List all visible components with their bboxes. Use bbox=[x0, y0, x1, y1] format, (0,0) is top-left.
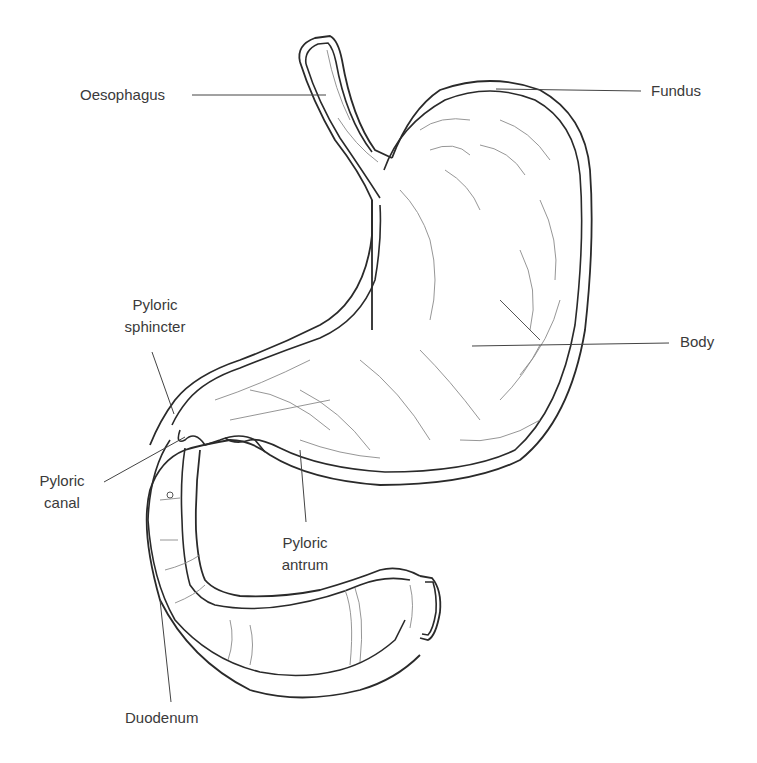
oesophagus-shape bbox=[299, 36, 392, 330]
stomach-inner-wall bbox=[172, 91, 582, 472]
label-pyloric-antrum: Pyloric antrum bbox=[270, 532, 340, 576]
label-body: Body bbox=[680, 331, 714, 353]
label-pyloric-sphincter: Pyloric sphincter bbox=[115, 294, 195, 338]
label-pyloric-canal: Pyloric canal bbox=[32, 470, 92, 514]
label-duodenum: Duodenum bbox=[125, 707, 198, 729]
leader-lines bbox=[104, 89, 669, 702]
leader-pyloric-canal bbox=[104, 437, 185, 482]
label-fundus: Fundus bbox=[651, 80, 701, 102]
leader-pyloric-antrum bbox=[300, 450, 306, 522]
stomach-diagram bbox=[0, 0, 757, 763]
leader-pyloric-sphincter bbox=[152, 352, 174, 414]
label-oesophagus: Oesophagus bbox=[80, 84, 165, 106]
gastric-rugae bbox=[215, 119, 560, 458]
leader-fundus bbox=[496, 89, 641, 91]
